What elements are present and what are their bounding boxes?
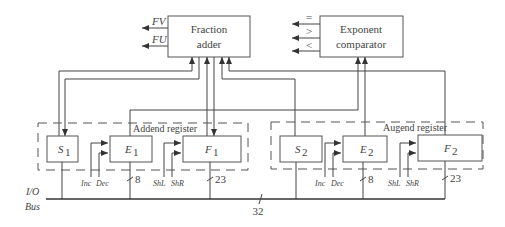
- s2-to-adder-wire: [222, 57, 295, 136]
- io-bus-label-line1: I/O: [25, 186, 39, 197]
- shl2-label: ShL: [388, 179, 401, 188]
- comparator-label-line2: comparator: [336, 38, 386, 50]
- f1-register: F 1: [183, 136, 241, 162]
- dec2-control-wire: [333, 153, 341, 177]
- e1-register: E 1: [110, 136, 152, 162]
- fraction-adder-block: Fraction adder: [168, 16, 250, 57]
- greater-label: >: [306, 25, 312, 37]
- f1-subscript: 1: [213, 146, 219, 158]
- s2-register: S 2: [280, 136, 322, 162]
- exponent-comparator-block: Exponent comparator: [320, 16, 403, 57]
- s1-register: S 1: [47, 136, 78, 162]
- dec2-label: Dec: [330, 179, 344, 188]
- less-label: <: [306, 39, 312, 51]
- bus-drops: 8 23 8 23: [62, 161, 462, 199]
- augend-register-label: Augend register: [383, 122, 448, 133]
- e1-subscript: 1: [133, 146, 139, 158]
- dec1-label: Dec: [95, 179, 109, 188]
- f2-register: F 2: [418, 135, 482, 161]
- comparator-label-line1: Exponent: [340, 23, 382, 35]
- shr2-label: ShR: [406, 179, 419, 188]
- shr1-control-wire: [172, 153, 181, 177]
- s2-name: S: [295, 143, 301, 155]
- s1-subscript: 1: [65, 146, 71, 158]
- e1-width-label: 8: [135, 173, 141, 185]
- shr1-label: ShR: [171, 179, 184, 188]
- fu-label: FU: [151, 33, 168, 45]
- fraction-adder-label-line1: Fraction: [191, 23, 228, 35]
- augend-register-group: Augend register S 2 E 2 F 2: [271, 122, 483, 169]
- shr2-control-wire: [408, 153, 416, 177]
- fraction-adder-label-line2: adder: [197, 38, 222, 50]
- bus-width-label: 32: [253, 205, 264, 217]
- fraction-adder-outputs: FV FU: [142, 15, 168, 46]
- f1-name: F: [204, 143, 212, 155]
- fv-label: FV: [151, 15, 167, 27]
- equal-label: =: [306, 11, 312, 23]
- shl1-label: ShL: [153, 179, 166, 188]
- s2-subscript: 2: [302, 146, 308, 158]
- addend-register-group: Addend register S 1 E 1 F 1: [38, 123, 248, 170]
- inc2-label: Inc: [314, 179, 326, 188]
- io-bus: I/O Bus 32: [25, 186, 445, 217]
- s1-name: S: [58, 143, 64, 155]
- e2-register: E 2: [343, 136, 387, 162]
- f1-width-label: 23: [215, 173, 227, 185]
- f2-subscript: 2: [452, 145, 458, 157]
- e2-width-label: 8: [368, 173, 374, 185]
- floating-point-adder-diagram: Fraction adder FV FU Exponent comparator…: [0, 0, 505, 227]
- io-bus-label-line2: Bus: [25, 201, 40, 212]
- comparator-outputs: = > <: [292, 11, 320, 51]
- e1-name: E: [124, 143, 132, 155]
- addend-register-label: Addend register: [133, 123, 198, 134]
- dec1-control-wire: [99, 153, 108, 177]
- e2-subscript: 2: [368, 146, 374, 158]
- inc1-label: Inc: [80, 179, 92, 188]
- f2-width-label: 23: [450, 172, 462, 184]
- f2-name: F: [443, 142, 451, 154]
- e2-name: E: [359, 143, 367, 155]
